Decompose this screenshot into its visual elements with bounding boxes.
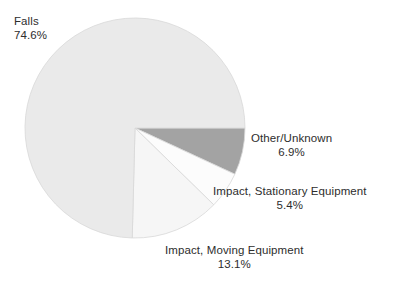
slice-label-other-unknown-value: 6.9%	[251, 145, 332, 159]
slice-label-impact-stationary-equipment: Impact, Stationary Equipment 5.4%	[213, 184, 367, 212]
slice-label-other-unknown-name: Other/Unknown	[251, 131, 332, 145]
pie-slices	[25, 18, 245, 238]
slice-label-falls-name: Falls	[14, 14, 47, 28]
slice-label-impact-moving-equipment: Impact, Moving Equipment 13.1%	[165, 243, 304, 271]
slice-label-impact-moving-equipment-value: 13.1%	[165, 257, 304, 271]
slice-label-falls-value: 74.6%	[14, 28, 47, 42]
pie-chart-svg	[0, 0, 400, 283]
pie-chart-figure: Falls 74.6% Other/Unknown 6.9% Impact, S…	[0, 0, 400, 283]
slice-label-impact-moving-equipment-name: Impact, Moving Equipment	[165, 243, 304, 257]
slice-label-impact-stationary-equipment-name: Impact, Stationary Equipment	[213, 184, 367, 198]
slice-label-falls: Falls 74.6%	[14, 14, 47, 42]
slice-label-other-unknown: Other/Unknown 6.9%	[251, 131, 332, 159]
slice-label-impact-stationary-equipment-value: 5.4%	[213, 198, 367, 212]
